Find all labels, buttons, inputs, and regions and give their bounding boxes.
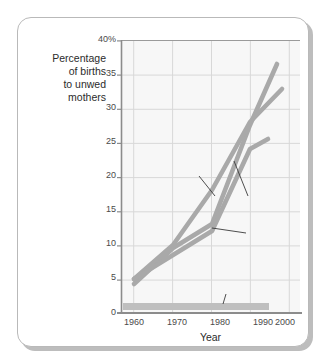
chart-canvas: Percentage of births to unwed mothers Ye… xyxy=(0,0,328,364)
plot-svg xyxy=(0,0,328,364)
y-axis-ticks xyxy=(117,41,121,313)
figure-root: Percentage of births to unwed mothers Ye… xyxy=(0,0,328,364)
